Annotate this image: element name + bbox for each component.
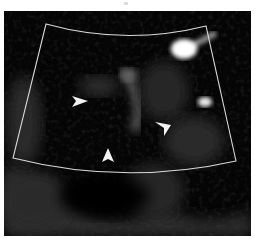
tissue-upper-center: [79, 76, 119, 96]
ultrasound-image: [4, 11, 251, 236]
tissue-right-lower: [164, 116, 224, 166]
central-node: [120, 69, 138, 81]
ultrasound-canvas: [4, 11, 251, 236]
tissue-left: [6, 76, 42, 166]
top-mark: [124, 2, 128, 5]
tissue-right-center: [139, 61, 189, 121]
bright-spot-upper-right: [171, 39, 197, 59]
bright-spot-right: [198, 97, 212, 107]
dark-region: [59, 174, 149, 218]
